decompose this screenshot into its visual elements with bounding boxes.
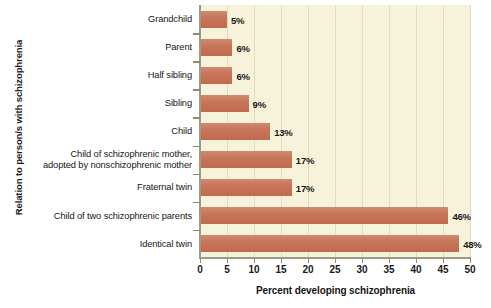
y-axis-tick bbox=[193, 202, 200, 203]
category-label: Half sibling bbox=[20, 70, 192, 81]
x-axis-tick-label: 45 bbox=[428, 264, 458, 275]
x-axis-tick bbox=[389, 258, 390, 263]
category-label: Parent bbox=[20, 42, 192, 53]
bar-value-label: 46% bbox=[452, 211, 470, 222]
x-axis-tick-label: 5 bbox=[212, 264, 242, 275]
bar bbox=[200, 123, 270, 140]
bar-value-label: 17% bbox=[296, 183, 314, 194]
category-label-line: Grandchild bbox=[20, 14, 192, 25]
plot-area: 5%6%6%9%13%17%17%46%48% bbox=[200, 5, 470, 258]
bar bbox=[200, 207, 448, 224]
bar-chart: Relation to person/s with schizophrenia … bbox=[0, 0, 491, 308]
x-axis-tick-label: 15 bbox=[266, 264, 296, 275]
bar-value-label: 9% bbox=[253, 99, 266, 110]
x-axis-tick-label: 30 bbox=[347, 264, 377, 275]
category-label-line: Child of two schizophrenic parents bbox=[20, 211, 192, 222]
bar bbox=[200, 11, 227, 28]
category-label-line: Sibling bbox=[20, 98, 192, 109]
x-axis-tick-label: 10 bbox=[239, 264, 269, 275]
category-label-line: Child of schizophrenic mother, bbox=[20, 149, 192, 160]
bar bbox=[200, 151, 292, 168]
y-axis-tick bbox=[193, 61, 200, 62]
bar bbox=[200, 39, 232, 56]
category-label-line: adopted by nonschizophrenic mother bbox=[20, 160, 192, 171]
category-label: Grandchild bbox=[20, 14, 192, 25]
x-axis-tick-label: 40 bbox=[401, 264, 431, 275]
category-label: Sibling bbox=[20, 98, 192, 109]
y-axis-tick bbox=[193, 117, 200, 118]
x-axis-tick-label: 20 bbox=[293, 264, 323, 275]
bar bbox=[200, 67, 232, 84]
y-axis-line bbox=[199, 5, 201, 258]
x-axis-tick bbox=[443, 258, 444, 263]
x-axis-tick-label: 0 bbox=[185, 264, 215, 275]
x-axis-tick bbox=[254, 258, 255, 263]
x-axis-tick bbox=[227, 258, 228, 263]
x-axis-tick bbox=[200, 258, 201, 263]
x-axis-tick-label: 35 bbox=[374, 264, 404, 275]
bar-value-label: 17% bbox=[296, 155, 314, 166]
bar bbox=[200, 95, 249, 112]
category-label: Child of schizophrenic mother,adopted by… bbox=[20, 149, 192, 170]
y-axis-tick bbox=[193, 230, 200, 231]
category-label-column: GrandchildParentHalf siblingSiblingChild… bbox=[24, 5, 196, 258]
bar-value-label: 6% bbox=[236, 71, 249, 82]
bar bbox=[200, 179, 292, 196]
x-axis-tick bbox=[281, 258, 282, 263]
bar-value-label: 48% bbox=[463, 239, 481, 250]
y-axis-tick bbox=[193, 33, 200, 34]
x-axis-tick bbox=[335, 258, 336, 263]
category-label: Fraternal twin bbox=[20, 182, 192, 193]
category-label: Child bbox=[20, 126, 192, 137]
x-axis-tick bbox=[308, 258, 309, 263]
y-axis-tick bbox=[193, 146, 200, 147]
bar-value-label: 6% bbox=[236, 43, 249, 54]
category-label-line: Fraternal twin bbox=[20, 182, 192, 193]
bar-value-label: 13% bbox=[274, 127, 292, 138]
category-label-line: Identical twin bbox=[20, 239, 192, 250]
x-axis-tick bbox=[362, 258, 363, 263]
category-label: Child of two schizophrenic parents bbox=[20, 211, 192, 222]
bar-value-label: 5% bbox=[231, 15, 244, 26]
x-axis-tick bbox=[416, 258, 417, 263]
category-label: Identical twin bbox=[20, 239, 192, 250]
y-axis-tick bbox=[193, 89, 200, 90]
x-axis-tick bbox=[470, 258, 471, 263]
x-axis-title: Percent developing schizophrenia bbox=[200, 285, 471, 296]
category-label-line: Half sibling bbox=[20, 70, 192, 81]
y-axis-tick bbox=[193, 174, 200, 175]
category-label-line: Parent bbox=[20, 42, 192, 53]
x-axis-tick-label: 50 bbox=[455, 264, 485, 275]
x-axis-tick-label: 25 bbox=[320, 264, 350, 275]
bar bbox=[200, 235, 459, 252]
category-label-line: Child bbox=[20, 126, 192, 137]
